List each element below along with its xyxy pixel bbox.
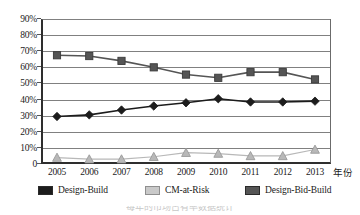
legend-swatch-design-build bbox=[38, 186, 53, 195]
data-point bbox=[311, 97, 319, 105]
data-point bbox=[279, 98, 287, 106]
data-point bbox=[86, 52, 93, 59]
legend-label-design-bid-build: Design-Bid-Build bbox=[265, 185, 331, 196]
legend-item-design-build: Design-Build bbox=[38, 183, 108, 197]
legend-item-cm-at-risk: CM-at-Risk bbox=[145, 183, 209, 197]
y-tick-label: 0 bbox=[1, 159, 37, 169]
data-point bbox=[182, 99, 190, 107]
data-point bbox=[118, 57, 125, 64]
legend-item-design-bid-build: Design-Bid-Build bbox=[245, 183, 331, 197]
data-point bbox=[247, 69, 254, 76]
data-point bbox=[117, 106, 125, 114]
data-point bbox=[246, 98, 254, 106]
y-tick-label: 50% bbox=[1, 78, 37, 88]
chart-figure: 90%80%70%60%50%40%30%20%10%0 20052006200… bbox=[0, 0, 360, 215]
data-series-layer bbox=[41, 19, 331, 164]
legend-swatch-design-bid-build bbox=[245, 186, 260, 195]
data-point bbox=[215, 74, 222, 81]
legend-label-design-build: Design-Build bbox=[58, 185, 108, 196]
data-point bbox=[214, 95, 222, 103]
x-tick-label: 2013 bbox=[295, 167, 335, 178]
x-axis-title: 年份 bbox=[333, 167, 353, 178]
data-point bbox=[311, 76, 318, 83]
chart-legend: Design-Build CM-at-Risk Design-Bid-Build bbox=[0, 183, 360, 201]
y-tick-label: 90% bbox=[1, 14, 37, 24]
data-point bbox=[311, 145, 320, 153]
data-point bbox=[53, 112, 61, 120]
data-point bbox=[53, 52, 60, 59]
y-tick-label: 70% bbox=[1, 46, 37, 56]
data-point bbox=[279, 69, 286, 76]
data-point bbox=[150, 64, 157, 71]
y-tick-label: 10% bbox=[1, 143, 37, 153]
data-point bbox=[85, 111, 93, 119]
caption-strip: 每年的市场占有率数据统计 bbox=[0, 206, 360, 215]
legend-label-cm-at-risk: CM-at-Risk bbox=[165, 185, 209, 196]
legend-swatch-cm-at-risk bbox=[145, 186, 160, 195]
y-tick-label: 80% bbox=[1, 30, 37, 40]
y-tick-label: 60% bbox=[1, 62, 37, 72]
y-tick-label: 20% bbox=[1, 127, 37, 137]
y-tick-label: 40% bbox=[1, 95, 37, 105]
data-point bbox=[150, 102, 158, 110]
y-tick-label: 30% bbox=[1, 111, 37, 121]
caption-text: 每年的市场占有率数据统计 bbox=[0, 206, 360, 213]
data-point bbox=[182, 71, 189, 78]
